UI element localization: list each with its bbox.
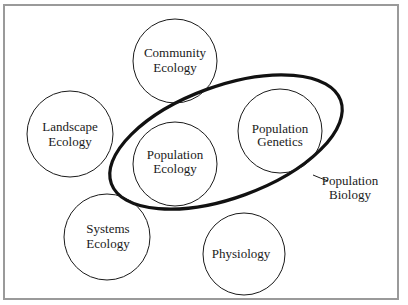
group-label: Biology bbox=[329, 187, 371, 202]
node-population-ecology: Population Ecology bbox=[133, 122, 217, 206]
node-systems-ecology: Systems Ecology bbox=[64, 194, 150, 280]
node-physiology: Physiology bbox=[203, 213, 285, 295]
node-landscape-ecology: Landscape Ecology bbox=[27, 91, 113, 177]
group-label: Population bbox=[322, 173, 379, 188]
node-community-ecology: Community Ecology bbox=[133, 19, 217, 103]
node-label: Systems bbox=[86, 221, 129, 236]
population-biology-label: Population Biology bbox=[322, 173, 379, 202]
node-label: Community bbox=[144, 45, 207, 60]
node-population-genetics: Population Genetics bbox=[238, 89, 322, 173]
node-label: Ecology bbox=[48, 134, 92, 149]
node-label: Population bbox=[147, 147, 204, 162]
node-label: Landscape bbox=[42, 119, 98, 134]
node-label: Physiology bbox=[212, 246, 271, 261]
population-biology-ellipse bbox=[92, 48, 360, 237]
diagram-canvas: Community Ecology Landscape Ecology Popu… bbox=[0, 0, 408, 305]
node-label: Ecology bbox=[153, 60, 197, 75]
node-label: Genetics bbox=[257, 134, 302, 149]
node-label: Ecology bbox=[86, 236, 130, 251]
node-label: Ecology bbox=[153, 161, 197, 176]
